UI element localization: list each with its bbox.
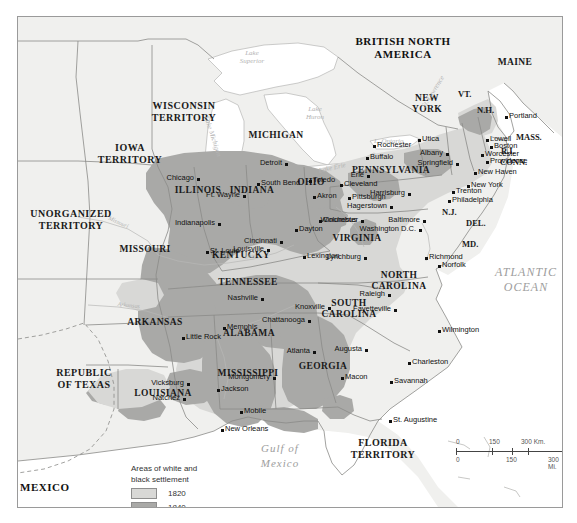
map-frame: BRITISH NORTH AMERICA MEXICO WISCONSIN T…: [17, 16, 563, 508]
city-dot: [425, 257, 428, 260]
city-dot: [423, 220, 426, 223]
city-dot: [389, 420, 392, 423]
city-dot: [257, 183, 260, 186]
city-dot: [197, 178, 200, 181]
city-dot: [438, 330, 441, 333]
scale-tick-mi150: [512, 448, 513, 455]
city-dot: [366, 157, 369, 160]
city-dot: [182, 337, 185, 340]
city-dot: [280, 241, 283, 244]
city-dot: [313, 196, 316, 199]
city-dot: [217, 389, 220, 392]
city-dot: [183, 398, 186, 401]
city-dot: [365, 349, 368, 352]
city-dot: [474, 172, 477, 175]
city-dot: [267, 249, 270, 252]
city-dot: [505, 116, 508, 119]
city-dot: [390, 206, 393, 209]
legend-title: Areas of white and black settlement: [131, 464, 197, 485]
city-dot: [446, 153, 449, 156]
city-dot: [218, 223, 221, 226]
city-dot: [240, 411, 243, 414]
city-dot: [348, 197, 351, 200]
legend-swatch-1820: [131, 488, 157, 499]
settlement-map: BRITISH NORTH AMERICA MEXICO WISCONSIN T…: [0, 0, 577, 523]
scale-bar-graphic: [456, 448, 563, 455]
scale-mi-150: 150: [506, 456, 517, 463]
city-dot: [328, 307, 331, 310]
scale-tick-km150: [492, 448, 493, 455]
city-dot: [285, 163, 288, 166]
city-dot: [486, 139, 489, 142]
scale-km-300: 300 Km.: [521, 438, 545, 445]
map-geography: [18, 17, 562, 507]
scale-mi-labels: 0 150 300 Mi.: [456, 456, 563, 465]
city-dot: [467, 185, 470, 188]
city-dot: [490, 146, 493, 149]
city-dot: [187, 383, 190, 386]
city-dot: [295, 229, 298, 232]
city-dot: [261, 298, 264, 301]
city-dot: [448, 200, 451, 203]
legend-label-1820: 1820: [168, 489, 186, 498]
city-dot: [388, 294, 391, 297]
city-dot: [243, 195, 246, 198]
city-dot: [223, 327, 226, 330]
scale-tick-km300: [528, 448, 529, 455]
city-dot: [408, 362, 411, 365]
scale-mi-0: 0: [456, 456, 460, 463]
city-dot: [309, 180, 312, 183]
city-dot: [456, 163, 459, 166]
legend-row-1840: 1840: [131, 502, 197, 508]
scale-km-0: 0: [456, 438, 460, 445]
city-dot: [206, 251, 209, 254]
scale-km-labels: 0 150 300 Km.: [456, 438, 563, 447]
city-dot: [364, 257, 367, 260]
legend-swatch-1840: [131, 502, 157, 508]
map-scale-bar: 0 150 300 Km. 0 150 300 Mi.: [456, 438, 563, 465]
map-legend: Areas of white and black settlement 1820…: [131, 464, 197, 508]
scale-tick-0: [456, 448, 457, 455]
city-dot: [394, 309, 397, 312]
city-dot: [308, 320, 311, 323]
legend-row-1820: 1820: [131, 488, 197, 499]
city-dot: [273, 377, 276, 380]
scale-km-150: 150: [489, 438, 500, 445]
legend-label-1840: 1840: [168, 503, 186, 508]
scale-mi-300: 300 Mi.: [548, 456, 563, 470]
scale-line: [456, 451, 563, 452]
city-dot: [486, 161, 489, 164]
city-dot: [313, 351, 316, 354]
city-dot: [408, 193, 411, 196]
city-dot: [221, 429, 224, 432]
city-dot: [438, 265, 441, 268]
city-dot: [367, 175, 370, 178]
city-dot: [373, 145, 376, 148]
city-dot: [361, 220, 364, 223]
city-dot: [390, 381, 393, 384]
city-dot: [419, 229, 422, 232]
city-dot: [340, 184, 343, 187]
city-dot: [319, 220, 322, 223]
city-dot: [303, 256, 306, 259]
city-dot: [481, 154, 484, 157]
city-dot: [452, 191, 455, 194]
city-dot: [418, 139, 421, 142]
city-dot: [341, 377, 344, 380]
